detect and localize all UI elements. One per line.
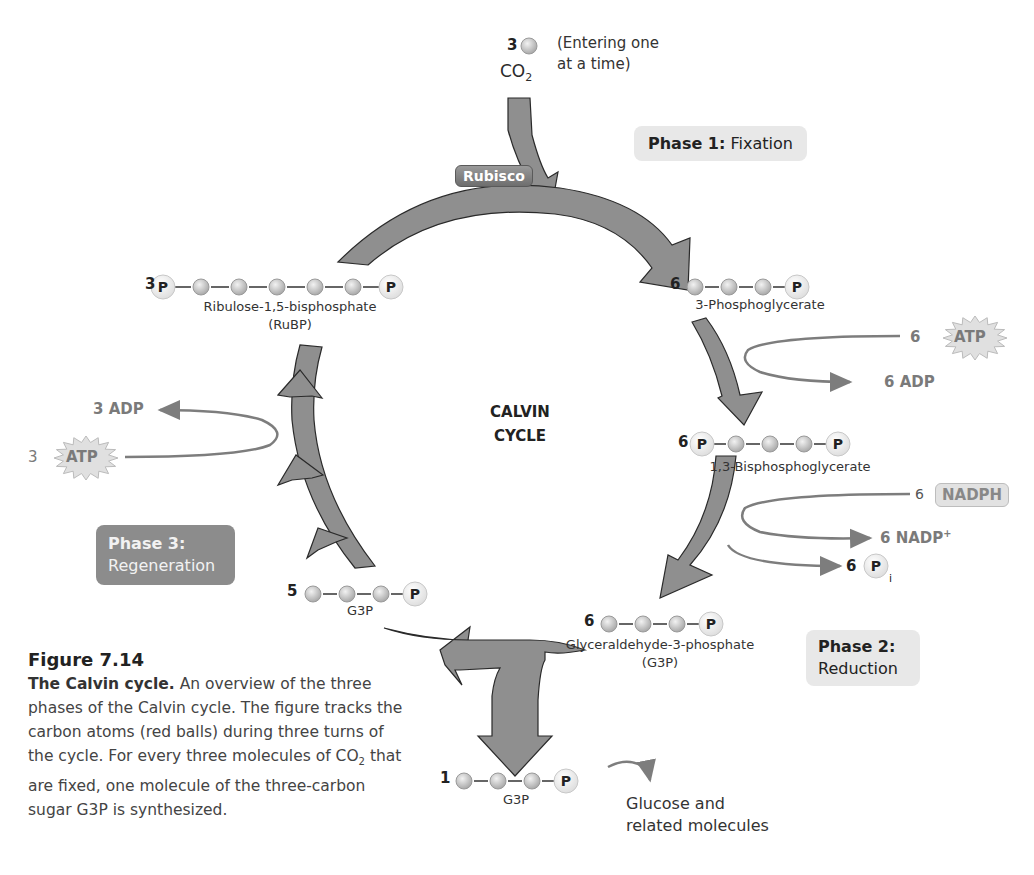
rubp-structure: PP	[151, 275, 403, 299]
figure-caption: Figure 7.14 The Calvin cycle. An overvie…	[28, 648, 408, 822]
g3p-recycled-count: 5	[287, 583, 297, 600]
nadp-label: 6 NADP+	[880, 528, 951, 547]
carbon-ball	[307, 279, 323, 295]
phosphate-symbol: P	[697, 436, 707, 452]
pga-structure: P	[687, 275, 809, 299]
phosphate-symbol: P	[561, 773, 571, 789]
pi-release-arrow	[728, 545, 840, 566]
carbon-ball	[524, 773, 540, 789]
carbon-ball	[231, 279, 247, 295]
carbon-ball	[669, 616, 685, 632]
pi-count: 6	[846, 558, 856, 575]
carbon-ball	[373, 586, 389, 602]
bpg-count: 6	[678, 434, 688, 451]
cycle-title-line1: CALVIN	[460, 400, 580, 424]
carbon-ball	[490, 773, 506, 789]
cycle-title-line2: CYCLE	[460, 424, 580, 448]
carbon-ball	[635, 616, 651, 632]
output-label-line1: Glucose and	[626, 795, 725, 813]
carbon-ball	[339, 586, 355, 602]
carbon-ball	[601, 616, 617, 632]
atp-label-phase2: ATP	[954, 329, 986, 346]
output-label-line2: related molecules	[626, 817, 769, 835]
atp-label-phase3: ATP	[66, 449, 98, 466]
phase1-title: Phase 1:	[648, 134, 725, 153]
atp-count-phase2: 6	[910, 329, 920, 346]
carbon-ball	[345, 279, 361, 295]
phase2-title: Phase 2:	[818, 637, 895, 656]
phase1-name: Fixation	[730, 134, 792, 153]
nadph-count: 6	[915, 486, 924, 502]
co2-label: CO2	[500, 62, 532, 85]
g3p-abbr: (G3P)	[545, 656, 775, 671]
pga-name: 3-Phosphoglycerate	[680, 298, 840, 313]
phosphate-symbol: P	[792, 279, 802, 295]
phase2-name: Reduction	[818, 659, 898, 678]
co2-count: 3	[507, 37, 517, 54]
co2-carbon-ball	[521, 38, 537, 54]
g3p-count: 6	[584, 613, 594, 630]
nadph-badge: NADPH	[935, 483, 1009, 507]
atp-consumption-loop-phase2	[745, 336, 900, 382]
phosphate-symbol: P	[158, 279, 168, 295]
pi-subscript: i	[889, 572, 892, 585]
phosphate-symbol: P	[833, 436, 843, 452]
caption-lead: The Calvin cycle.	[28, 675, 175, 693]
figure-number: Figure 7.14	[28, 648, 408, 672]
co2-entry-note-1: (Entering one	[557, 35, 659, 52]
pi-symbol: P	[871, 558, 881, 574]
g3p-recycled-name: G3P	[330, 604, 390, 619]
phase3-box: Phase 3:Regeneration	[96, 525, 235, 585]
bpg-name: 1,3-Bisphosphoglycerate	[690, 460, 890, 475]
cycle-arrow-reduction-2	[660, 456, 736, 598]
pga-count: 6	[670, 276, 680, 293]
glucose-output-arrow	[608, 762, 650, 780]
carbon-ball	[796, 436, 812, 452]
carbon-ball	[755, 279, 771, 295]
carbon-ball	[456, 773, 472, 789]
g3p-name: Glyceraldehyde-3-phosphate	[545, 638, 775, 653]
phase3-title: Phase 3:	[108, 534, 185, 553]
carbon-ball	[687, 279, 703, 295]
g3p-output-count: 1	[440, 770, 450, 787]
phase1-box: Phase 1: Fixation	[634, 126, 807, 161]
carbon-ball	[728, 436, 744, 452]
rubp-abbr: (RuBP)	[190, 318, 390, 333]
adp-label-phase3: 3 ADP	[93, 401, 144, 418]
bpg-structure: PP	[690, 432, 850, 456]
adp-label-phase2: 6 ADP	[884, 374, 935, 391]
atp-consumption-loop-phase3	[125, 410, 277, 457]
g3p-structure: P	[601, 612, 723, 636]
calvin-cycle-title: CALVIN CYCLE	[460, 400, 580, 448]
carbon-ball	[305, 586, 321, 602]
co2-entry-note-2: at a time)	[557, 56, 631, 73]
rubp-name: Ribulose-1,5-bisphosphate	[190, 300, 390, 315]
carbon-ball	[762, 436, 778, 452]
atp-count-phase3: 3	[28, 449, 38, 466]
phase2-box: Phase 2:Reduction	[806, 630, 920, 686]
inorganic-phosphate: Pi	[864, 554, 892, 585]
rubp-count: 3	[145, 276, 155, 293]
carbon-ball	[721, 279, 737, 295]
carbon-ball	[193, 279, 209, 295]
rubisco-enzyme-label: Rubisco	[455, 165, 533, 187]
cycle-arrow-fixation	[338, 185, 690, 290]
phase3-name: Regeneration	[108, 556, 215, 575]
phosphate-symbol: P	[706, 616, 716, 632]
phosphate-symbol: P	[386, 279, 396, 295]
g3p-output-name: G3P	[486, 793, 546, 808]
carbon-ball	[269, 279, 285, 295]
phosphate-symbol: P	[410, 586, 420, 602]
cycle-arrow-reduction-1	[692, 318, 762, 425]
